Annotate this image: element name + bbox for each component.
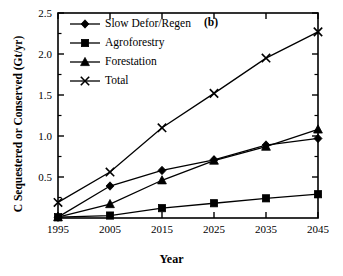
series-line-total — [58, 32, 318, 203]
data-point-agroforestry — [210, 200, 217, 207]
data-point-forestation — [106, 199, 115, 207]
data-point-agroforestry — [106, 212, 113, 219]
plot-area — [0, 0, 343, 276]
data-point-agroforestry — [314, 191, 321, 198]
data-point-agroforestry — [262, 195, 269, 202]
legend-marker-slow-defor-regen — [81, 20, 89, 28]
data-point-slow-defor-regen — [158, 166, 166, 174]
chart-figure: C Sequestered or Conserved (Gt/yr) Year … — [0, 0, 343, 276]
axis-frame — [58, 13, 318, 218]
series-line-forestation — [58, 129, 318, 217]
data-point-slow-defor-regen — [106, 182, 114, 190]
legend-marker-agroforestry — [81, 39, 88, 46]
series-line-agroforestry — [58, 194, 318, 217]
data-point-agroforestry — [158, 205, 165, 212]
data-point-forestation — [314, 125, 323, 133]
